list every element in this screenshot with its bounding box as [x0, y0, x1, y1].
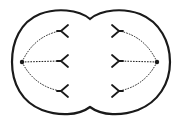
cell-membrane [12, 10, 170, 114]
chromosome [57, 85, 68, 97]
chromosome [112, 25, 123, 37]
chromosome [57, 55, 68, 67]
spindle-fibers-left [22, 31, 60, 91]
chromosome [112, 55, 123, 67]
chromosomes-right [112, 25, 123, 97]
chromosome [57, 25, 68, 37]
chromosome [112, 85, 123, 97]
spindle-fibers-right [119, 31, 157, 91]
pole-right [155, 60, 159, 64]
diagram-canvas [0, 0, 181, 124]
anaphase-cell-diagram [0, 0, 181, 124]
pole-left [20, 60, 24, 64]
chromosomes-left [57, 25, 68, 97]
